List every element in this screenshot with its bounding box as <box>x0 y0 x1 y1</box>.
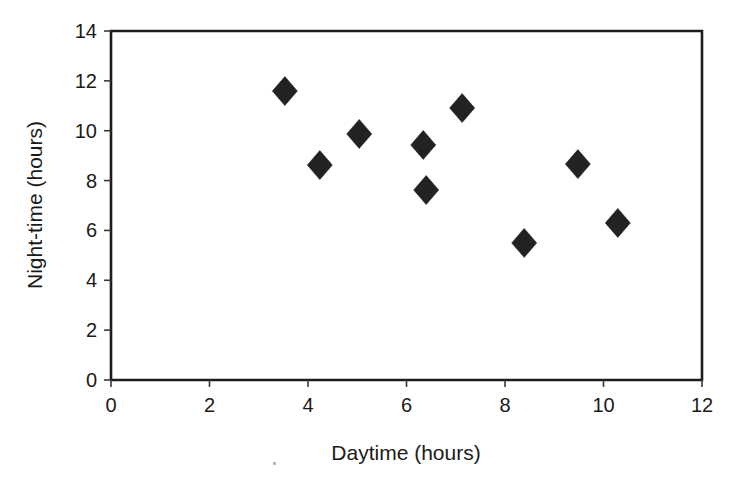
x-tick-label-4: 4 <box>302 394 313 416</box>
y-tick-label-2: 2 <box>86 319 97 341</box>
plot-frame <box>111 31 702 380</box>
y-axis-title: Night-time (hours) <box>23 121 46 289</box>
y-tick-label-14: 14 <box>75 20 97 42</box>
y-tick-label-0: 0 <box>86 369 97 391</box>
x-tick-label-10: 10 <box>592 394 614 416</box>
x-tick-label-6: 6 <box>401 394 412 416</box>
y-axis-tick-labels: 02468101214 <box>75 20 97 391</box>
scan-speck <box>273 462 276 465</box>
x-axis-tick-labels: 024681012 <box>105 394 713 416</box>
chart-canvas: 02468101214 024681012 Daytime (hours) Ni… <box>0 0 744 487</box>
x-tick-label-8: 8 <box>499 394 510 416</box>
y-tick-label-12: 12 <box>75 70 97 92</box>
scatter-plot-figure: 02468101214 024681012 Daytime (hours) Ni… <box>0 0 744 487</box>
y-tick-label-10: 10 <box>75 120 97 142</box>
x-tick-label-2: 2 <box>204 394 215 416</box>
data-point <box>450 94 475 123</box>
data-point <box>565 150 590 179</box>
data-point <box>272 77 297 106</box>
data-point <box>411 130 436 159</box>
data-point <box>414 176 439 205</box>
x-axis-title: Daytime (hours) <box>331 441 480 464</box>
data-point-group <box>272 77 630 258</box>
x-tick-label-0: 0 <box>105 394 116 416</box>
data-point <box>347 119 372 148</box>
y-tick-label-6: 6 <box>86 219 97 241</box>
y-tick-label-4: 4 <box>86 269 97 291</box>
data-point <box>512 228 537 257</box>
data-point <box>605 208 630 237</box>
y-tick-label-8: 8 <box>86 170 97 192</box>
x-tick-label-12: 12 <box>691 394 713 416</box>
data-point <box>307 151 332 180</box>
